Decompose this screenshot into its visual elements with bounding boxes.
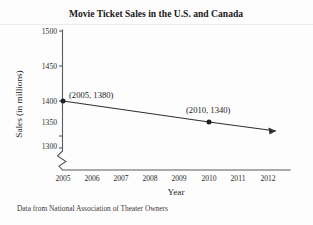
data-point-marker-2005 xyxy=(61,99,66,104)
y-tick-label-1400: 1400 xyxy=(42,97,57,106)
chart-title: Movie Ticket Sales in the U.S. and Canad… xyxy=(69,8,243,19)
x-tick-label-2012: 2012 xyxy=(260,174,275,183)
x-tick-label-2005: 2005 xyxy=(55,174,70,183)
x-tick-label-2008: 2008 xyxy=(142,174,157,183)
line-end-arrow-icon xyxy=(269,128,277,135)
x-tick-label-2006: 2006 xyxy=(84,174,99,183)
source-note: Data from National Association of Theate… xyxy=(17,204,168,213)
x-tick-label-2007: 2007 xyxy=(113,174,128,183)
x-tick-label-2010: 2010 xyxy=(201,174,216,183)
annotation-2005: (2005, 1380) xyxy=(69,90,114,100)
y-tick-label-1500: 1500 xyxy=(42,27,57,36)
data-point-marker-2010 xyxy=(207,120,212,125)
x-axis-title: Year xyxy=(168,187,185,197)
x-tick-label-2009: 2009 xyxy=(171,174,186,183)
chart-figure: Movie Ticket Sales in the U.S. and Canad… xyxy=(0,0,313,225)
y-tick-label-1450: 1450 xyxy=(42,62,57,71)
data-series-line xyxy=(63,101,276,131)
movie-ticket-sales-line-chart: Movie Ticket Sales in the U.S. and Canad… xyxy=(0,0,313,225)
y-axis-title: Sales (in millions) xyxy=(14,70,24,137)
x-tick-label-2011: 2011 xyxy=(231,174,246,183)
y-axis-break-symbol xyxy=(58,151,67,170)
y-tick-label-1300: 1300 xyxy=(42,142,57,151)
annotation-2010: (2010, 1340) xyxy=(186,105,231,115)
y-tick-label-1350: 1350 xyxy=(42,118,57,127)
